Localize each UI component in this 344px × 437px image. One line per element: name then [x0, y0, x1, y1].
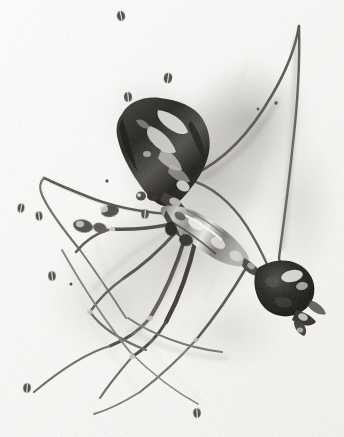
specimen-image-canvas [0, 0, 344, 437]
film-grain-overlay [0, 0, 344, 437]
specimen-photograph [0, 0, 344, 437]
